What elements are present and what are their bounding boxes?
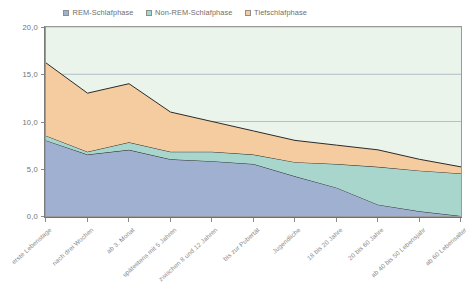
x-tick-label-7: 18 bis 20 Jahre — [305, 226, 343, 261]
x-tick-label-text-10: ab 60 Lebensalter — [424, 226, 468, 267]
x-tick-label-10: ab 60 Lebensalter — [424, 226, 468, 267]
x-tick-mark-8 — [377, 218, 378, 222]
x-axis-ticks-and-labels: erste Lebenstagenach drei Wochenab 3. Mo… — [0, 0, 475, 298]
x-tick-mark-7 — [336, 218, 337, 222]
x-tick-label-text-5: bis zur Pubertät — [221, 226, 260, 262]
x-tick-label-text-1: nach drei Wochen — [50, 226, 94, 267]
x-tick-mark-6 — [294, 218, 295, 222]
x-tick-mark-9 — [419, 218, 420, 222]
x-tick-mark-0 — [45, 218, 46, 222]
x-tick-label-2: ab 3. Monat — [105, 226, 136, 255]
x-tick-label-8: 20 bis 60 Jahre — [346, 226, 384, 261]
x-tick-mark-10 — [460, 218, 461, 222]
x-tick-mark-2 — [128, 218, 129, 222]
sleep-phases-area-chart: REM-Schlafphase Non-REM-Schlafphase Tief… — [0, 0, 475, 298]
x-tick-label-0: erste Lebenstage — [10, 226, 53, 265]
x-tick-label-text-6: Jugendliche — [271, 226, 302, 255]
x-tick-label-5: bis zur Pubertät — [221, 226, 260, 262]
x-tick-label-text-7: 18 bis 20 Jahre — [305, 226, 343, 261]
x-tick-mark-4 — [211, 218, 212, 222]
x-tick-label-text-2: ab 3. Monat — [105, 226, 136, 255]
x-tick-mark-1 — [87, 218, 88, 222]
x-tick-label-1: nach drei Wochen — [50, 226, 94, 267]
x-tick-label-text-0: erste Lebenstage — [10, 226, 53, 265]
x-tick-mark-5 — [253, 218, 254, 222]
x-tick-label-6: Jugendliche — [271, 226, 302, 255]
x-tick-label-text-8: 20 bis 60 Jahre — [346, 226, 384, 261]
x-tick-mark-3 — [170, 218, 171, 222]
